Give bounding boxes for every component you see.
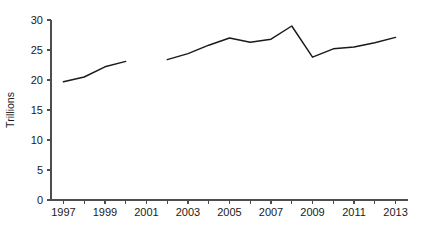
y-tick-label: 10 [31, 134, 43, 146]
y-axis-title: Trillions [4, 92, 16, 128]
x-tick-label: 2013 [383, 206, 407, 218]
x-tick-label: 2007 [259, 206, 283, 218]
y-tick-label: 30 [31, 14, 43, 26]
series-line-segment-1 [63, 61, 125, 81]
x-tick-label: 1999 [93, 206, 117, 218]
y-tick-label: 0 [37, 194, 43, 206]
x-tick-label: 1997 [51, 206, 75, 218]
y-tick-label: 20 [31, 74, 43, 86]
chart-canvas: 051015202530 199719992001200320052007200… [0, 0, 429, 235]
x-tick-label: 2003 [176, 206, 200, 218]
y-axis-ticks: 051015202530 [31, 14, 51, 206]
x-tick-label: 2001 [134, 206, 158, 218]
x-tick-label: 2009 [300, 206, 324, 218]
line-chart: 051015202530 199719992001200320052007200… [0, 0, 429, 235]
y-tick-label: 15 [31, 104, 43, 116]
y-tick-label: 5 [37, 164, 43, 176]
y-tick-label: 25 [31, 44, 43, 56]
series-line-segment-2 [167, 26, 395, 60]
x-tick-label: 2005 [217, 206, 241, 218]
x-axis-ticks: 199719992001200320052007200920112013 [51, 200, 408, 218]
data-series-group [63, 26, 395, 82]
x-tick-label: 2011 [342, 206, 366, 218]
